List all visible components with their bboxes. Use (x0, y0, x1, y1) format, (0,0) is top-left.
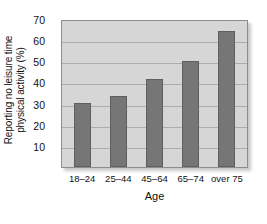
bar-slot-over-75 (208, 21, 244, 167)
bar-slot-65-74 (172, 21, 208, 167)
x-tick-label-over-75: over 75 (209, 172, 245, 188)
plot-area (61, 20, 248, 168)
bar-slot-45-64 (137, 21, 173, 167)
y-tick-label-40: 40 (5, 78, 45, 88)
bar-chart-figure: Reporting no leisure time physical activ… (0, 0, 267, 224)
y-tick-label-10: 10 (5, 142, 45, 152)
x-tick-label-65-74: 65–74 (173, 172, 209, 188)
bar-65-74[interactable] (182, 61, 199, 167)
bar-slot-25-44 (101, 21, 137, 167)
bar-18-24[interactable] (74, 103, 91, 167)
bar-series (62, 21, 247, 167)
y-tick-label-20: 20 (5, 121, 45, 131)
bar-25-44[interactable] (110, 96, 127, 167)
y-tick-label-30: 30 (5, 100, 45, 110)
y-tick-label-70: 70 (5, 15, 45, 25)
x-tick-label-18-24: 18–24 (64, 172, 100, 188)
bar-slot-18-24 (65, 21, 101, 167)
x-axis-tick-labels: 18–24 25–44 45–64 65–74 over 75 (61, 172, 248, 188)
x-tick-label-45-64: 45–64 (136, 172, 172, 188)
y-tick-label-60: 60 (5, 36, 45, 46)
y-axis-label: Reporting no leisure time physical activ… (0, 0, 30, 180)
bar-over-75[interactable] (218, 31, 235, 167)
x-tick-label-25-44: 25–44 (100, 172, 136, 188)
y-tick-label-50: 50 (5, 57, 45, 67)
x-axis-label: Age (61, 190, 248, 202)
bar-45-64[interactable] (146, 79, 163, 167)
